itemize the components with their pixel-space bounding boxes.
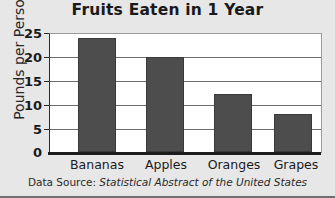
source-note-prefix: Data Source:	[28, 176, 96, 188]
y-tick-label-0: 0	[20, 146, 42, 159]
y-tick-label-25: 25	[20, 27, 42, 40]
y-tick-label-20: 20	[20, 51, 42, 64]
bar-apples	[146, 57, 184, 152]
category-label-apples: Apples	[131, 157, 201, 172]
x-axis-category-labels: Bananas Apples Oranges Grapes	[49, 157, 320, 175]
bars-layer	[49, 33, 320, 152]
y-tick-label-5: 5	[20, 123, 42, 136]
bar-bananas	[78, 38, 116, 152]
y-axis-tick-labels: 25 20 15 10 5 0	[11, 0, 42, 198]
bar-oranges	[214, 94, 252, 152]
category-label-grapes: Grapes	[261, 157, 331, 172]
bar-chart-figure: Fruits Eaten in 1 Year Pounds per Person…	[0, 0, 335, 198]
source-note-title: Statistical Abstract of the United State…	[99, 176, 307, 188]
x-axis-baseline	[48, 152, 321, 155]
bar-grapes	[274, 114, 312, 152]
source-note: Data Source: Statistical Abstract of the…	[0, 176, 335, 188]
category-label-oranges: Oranges	[197, 157, 271, 172]
y-tick-label-10: 10	[20, 99, 42, 112]
y-tick-label-15: 15	[20, 75, 42, 88]
category-label-bananas: Bananas	[59, 157, 135, 172]
chart-title: Fruits Eaten in 1 Year	[0, 1, 335, 19]
